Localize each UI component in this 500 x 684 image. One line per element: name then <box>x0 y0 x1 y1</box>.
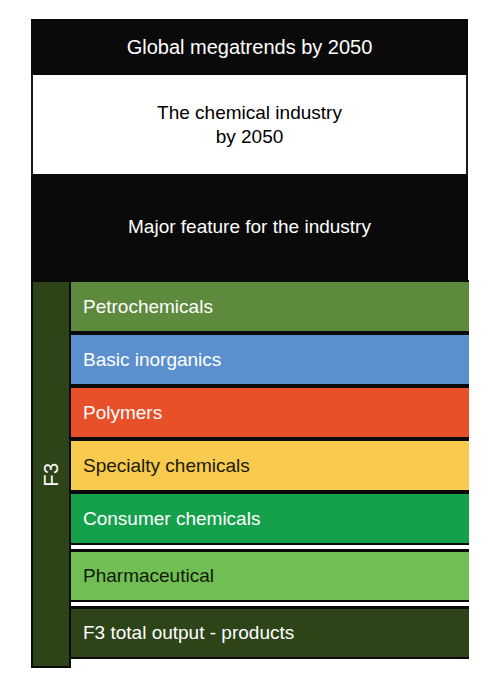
header-box-global-megatrends: Global megatrends by 2050 <box>31 19 468 75</box>
f3-spine-label: F3 <box>40 462 63 486</box>
bar-specialty-chemicals: Specialty chemicals <box>71 439 469 492</box>
bar-petrochemicals: Petrochemicals <box>71 280 469 333</box>
bar-basic-inorganics-label: Basic inorganics <box>83 349 221 371</box>
header-box-chemical-industry-label: The chemical industryby 2050 <box>157 101 342 147</box>
bar-pharmaceutical: Pharmaceutical <box>71 549 469 602</box>
bar-pharmaceutical-label: Pharmaceutical <box>83 565 214 587</box>
f3-block: F3 PetrochemicalsBasic inorganicsPolymer… <box>31 280 469 668</box>
megatrends-diagram: Global megatrends by 2050 The chemical i… <box>0 0 500 684</box>
header-box-major-feature-label: Major feature for the industry <box>128 215 371 238</box>
bar-specialty-chemicals-label: Specialty chemicals <box>83 455 250 477</box>
f3-spine: F3 <box>31 280 71 668</box>
bar-f3-total-output: F3 total output - products <box>71 606 469 659</box>
bar-f3-total-output-label: F3 total output - products <box>83 622 294 644</box>
bar-consumer-chemicals: Consumer chemicals <box>71 492 469 545</box>
bar-consumer-chemicals-label: Consumer chemicals <box>83 508 260 530</box>
bar-polymers-label: Polymers <box>83 402 162 424</box>
f3-bar-stack: PetrochemicalsBasic inorganicsPolymersSp… <box>71 280 469 668</box>
header-box-major-feature: Major feature for the industry <box>31 174 468 280</box>
bar-polymers: Polymers <box>71 386 469 439</box>
header-box-chemical-industry: The chemical industryby 2050 <box>31 75 468 174</box>
bar-petrochemicals-label: Petrochemicals <box>83 296 213 318</box>
header-box-global-megatrends-label: Global megatrends by 2050 <box>127 35 373 59</box>
bar-basic-inorganics: Basic inorganics <box>71 333 469 386</box>
